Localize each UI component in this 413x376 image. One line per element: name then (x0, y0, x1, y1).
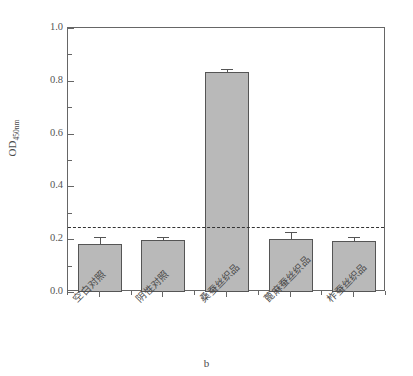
y-tick-minor (68, 160, 72, 161)
y-tick-minor (68, 266, 72, 267)
y-axis-title: OD450nm (6, 88, 18, 188)
y-tick-label: 0.4 (33, 180, 63, 191)
y-axis-title-subscript: 450nm (12, 120, 21, 141)
y-tick-label: 1.0 (33, 22, 63, 33)
y-axis-title-text: OD (6, 140, 18, 156)
y-axis-tick-labels: 0.00.20.40.60.81.0 (30, 27, 63, 291)
y-tick-major (68, 81, 74, 82)
figure-panel: 0.00.20.40.60.81.0 OD450nm 空白对照阴性对照桑蚕丝织品… (0, 0, 413, 376)
y-tick-minor (68, 107, 72, 108)
y-tick-label: 0.8 (33, 75, 63, 86)
y-tick-label: 0.2 (33, 233, 63, 244)
cutoff-threshold-line (68, 227, 384, 228)
error-bar-cap (94, 237, 106, 238)
panel-label: b (0, 357, 413, 369)
error-bar-cap (285, 232, 297, 233)
plot-area (67, 27, 385, 291)
y-tick-major (68, 134, 74, 135)
x-tick-minor (385, 291, 386, 295)
error-bar-cap (157, 237, 169, 238)
y-tick-major (68, 186, 74, 187)
y-tick-minor (68, 213, 72, 214)
bar (205, 72, 249, 292)
y-tick-label: 0.6 (33, 128, 63, 139)
y-tick-major (68, 239, 74, 240)
error-bar-cap (348, 237, 360, 238)
error-bar-stem (291, 232, 292, 239)
y-tick-major (68, 28, 74, 29)
error-bar-cap (221, 69, 233, 70)
y-tick-minor (68, 54, 72, 55)
y-tick-label: 0.0 (33, 286, 63, 297)
